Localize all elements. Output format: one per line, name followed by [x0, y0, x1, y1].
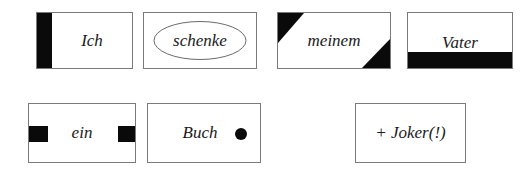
card-label: ein: [29, 123, 135, 143]
card-schenke: schenke: [143, 12, 257, 69]
card-label: Ich: [52, 31, 132, 51]
card-label: meinem: [278, 31, 390, 51]
bottom-bar-marker: [408, 52, 512, 68]
card-joker: + Joker(!): [355, 103, 466, 163]
card-ein: ein: [28, 103, 136, 163]
card-ich: Ich: [36, 12, 133, 69]
card-vater: Vater: [407, 12, 513, 69]
card-label: + Joker(!): [356, 123, 465, 143]
left-bar-marker: [37, 13, 52, 68]
card-label: schenke: [144, 31, 256, 51]
dot-marker: [235, 128, 247, 140]
card-label: Vater: [408, 33, 512, 53]
card-buch: Buch: [147, 103, 261, 163]
card-meinem: meinem: [277, 12, 391, 69]
